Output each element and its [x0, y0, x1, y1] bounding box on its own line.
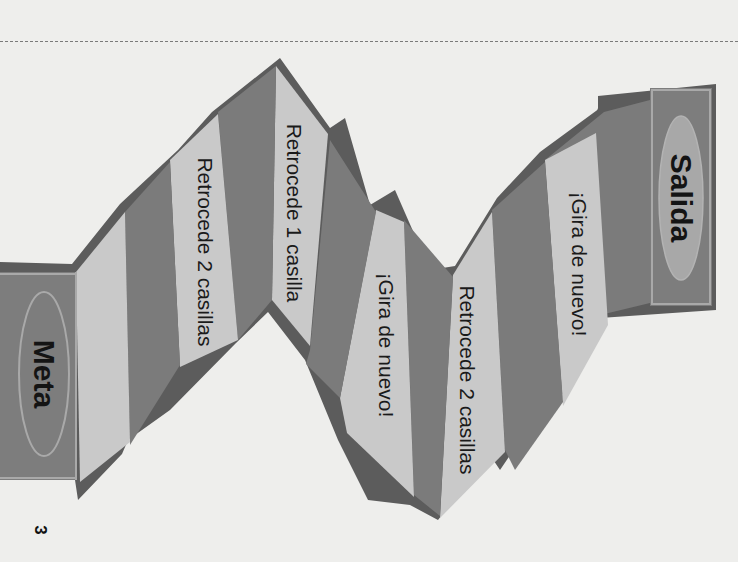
finish-label: Meta [28, 340, 61, 409]
game-board-page: Salida Meta ¡Gira de nuevo! Retrocede 2 … [0, 0, 738, 562]
square-2-label: ¡Gira de nuevo! [568, 192, 591, 337]
square-4-label: Retrocede 2 casillas [456, 285, 479, 474]
start-label: Salida [665, 154, 698, 243]
finish-block: Meta [0, 272, 76, 480]
square-8-label: Retrocede 1 casilla [283, 124, 306, 303]
square-10-label: Retrocede 2 casillas [194, 157, 217, 346]
square-6-label: ¡Gira de nuevo! [375, 273, 398, 418]
zigzag-path-board: Salida Meta ¡Gira de nuevo! Retrocede 2 … [0, 0, 738, 562]
page-number: 3 [31, 525, 50, 534]
start-block: Salida [650, 88, 712, 306]
